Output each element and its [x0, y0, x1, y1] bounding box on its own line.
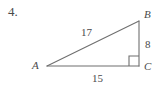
- vertex-label-a: A: [32, 60, 39, 71]
- vertex-label-b: B: [144, 9, 151, 20]
- geometry-figure: 4. A B C 17 8 15: [0, 0, 163, 97]
- right-triangle-diagram: [0, 0, 163, 97]
- vertex-label-c: C: [144, 61, 151, 72]
- side-label-leg: 8: [145, 39, 151, 50]
- hypotenuse-line-ab: [47, 21, 139, 66]
- side-label-base: 15: [92, 73, 103, 84]
- side-label-hypotenuse: 17: [81, 27, 92, 38]
- right-angle-marker-icon: [129, 56, 139, 66]
